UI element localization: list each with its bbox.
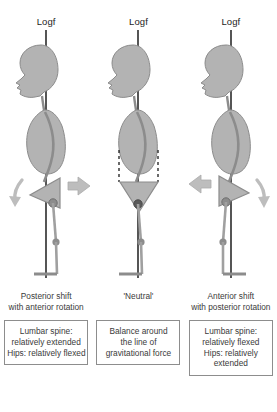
figure-neutral: [92, 30, 184, 288]
caption-line: with posterior rotation: [185, 302, 277, 313]
caption-anterior-shift: Anterior shift with posterior rotation: [185, 291, 277, 314]
summary-box-anterior-shift: Lumbar spine: relatively flexed Hips: re…: [189, 320, 273, 376]
figure-posterior-shift: [0, 30, 92, 288]
summary-box-neutral: Balance around the line of gravitational…: [96, 320, 180, 365]
summary-line: relatively extended: [7, 337, 85, 348]
summary-line: relatively flexed: [192, 337, 270, 348]
caption-neutral: 'Neutral': [92, 291, 184, 314]
posture-diagram: Logf: [0, 0, 277, 412]
summary-line: gravitational force: [99, 348, 177, 359]
thorax-icon: [119, 110, 158, 174]
summary-line: Lumbar spine:: [192, 326, 270, 337]
panel-row: Logf: [0, 0, 277, 412]
head-profile-icon: [201, 45, 243, 97]
summary-line: Hips: relatively: [192, 348, 270, 359]
femur-icon: [53, 203, 56, 242]
tibia-icon: [141, 242, 142, 274]
panel-anterior-shift: Logf: [185, 0, 277, 412]
summary-line: the line of: [99, 337, 177, 348]
tibia-icon: [56, 242, 57, 274]
caption-line: Posterior shift: [0, 291, 92, 302]
thorax-icon: [211, 110, 250, 174]
rotation-arrow-down-left-icon: [9, 180, 22, 207]
caption-line: with anterior rotation: [0, 302, 92, 313]
summary-line: Hips: relatively flexed: [7, 348, 85, 359]
logf-label: Logf: [221, 16, 240, 28]
femur-icon: [223, 202, 226, 242]
summary-line: Balance around: [99, 326, 177, 337]
summary-line: Lumbar spine:: [7, 326, 85, 337]
figure-anterior-shift: [185, 30, 277, 288]
logf-label: Logf: [129, 16, 148, 28]
summary-box-posterior-shift: Lumbar spine: relatively extended Hips: …: [4, 320, 88, 365]
shift-arrow-right-icon: [68, 177, 90, 195]
caption-posterior-shift: Posterior shift with anterior rotation: [0, 291, 92, 314]
panel-posterior-shift: Logf: [0, 0, 92, 412]
head-profile-icon: [108, 45, 150, 97]
caption-line: Anterior shift: [185, 291, 277, 302]
caption-line: 'Neutral': [92, 291, 184, 302]
logf-label: Logf: [37, 16, 56, 28]
rotation-arrow-down-right-icon: [257, 180, 270, 208]
head-profile-icon: [16, 45, 58, 97]
shift-arrow-left-icon: [189, 175, 211, 193]
panel-neutral: Logf 'Neutral': [92, 0, 184, 412]
thorax-icon: [27, 110, 66, 174]
summary-line: extended: [192, 358, 270, 369]
